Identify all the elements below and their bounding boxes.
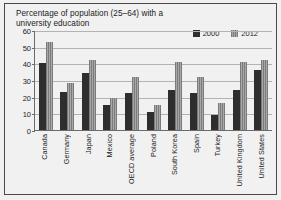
bar-group [186, 31, 208, 130]
x-axis-tick-label: South Korea [170, 134, 179, 175]
bar-2000 [82, 73, 89, 130]
bar-2012 [175, 62, 182, 130]
bar-2012 [197, 77, 204, 130]
bar-group [78, 31, 100, 130]
x-axis-tick-label: Spain [192, 134, 201, 153]
x-axis-tick-cell: United Kingdom [229, 134, 251, 194]
x-axis-tick-label: United Kingdom [235, 134, 244, 187]
bar-group [35, 31, 57, 130]
bar-2012 [67, 83, 74, 130]
bar-2000 [147, 112, 154, 130]
bar-2000 [233, 90, 240, 130]
bar-group [229, 31, 251, 130]
bar-2012 [154, 105, 161, 130]
y-axis-tick-mark [32, 131, 35, 132]
y-axis-tick-label: 40 [23, 60, 31, 69]
bar-2000 [39, 63, 46, 130]
bar-2012 [89, 60, 96, 130]
plot-area [34, 31, 272, 131]
bar-2000 [125, 93, 132, 130]
y-axis-tick-label: 30 [23, 77, 31, 86]
bar-2012 [110, 98, 117, 130]
x-axis-tick-label: Mexico [105, 134, 114, 157]
x-axis-tick-cell: South Korea [164, 134, 186, 194]
y-axis-tick-label: 0 [27, 127, 31, 136]
y-axis-tick-label: 10 [23, 110, 31, 119]
x-axis-tick-cell: Mexico [99, 134, 121, 194]
x-axis: CanadaGermanyJapanMexicoOECD averagePola… [34, 134, 272, 194]
bar-2000 [211, 115, 218, 130]
x-axis-tick-cell: OECD average [121, 134, 143, 194]
bar-group [143, 31, 165, 130]
x-axis-tick-label: Canada [40, 134, 49, 160]
x-axis-tick-label: Germany [62, 134, 71, 164]
bar-2000 [60, 92, 67, 130]
chart-screenshot: Percentage of population (25–64) with a … [0, 0, 281, 200]
x-axis-tick-label: Poland [149, 134, 158, 157]
x-axis-tick-label: OECD average [127, 134, 136, 184]
x-axis-tick-cell: United States [250, 134, 272, 194]
x-axis-tick-label: Japan [84, 134, 93, 154]
x-axis-tick-cell: Spain [185, 134, 207, 194]
bar-group [57, 31, 79, 130]
bar-group [207, 31, 229, 130]
bar-group [121, 31, 143, 130]
bar-2012 [218, 103, 225, 130]
x-axis-tick-cell: Canada [34, 134, 56, 194]
bar-group [100, 31, 122, 130]
chart-title: Percentage of population (25–64) with a … [16, 9, 196, 29]
x-axis-tick-label: United States [257, 134, 266, 178]
x-axis-tick-cell: Turkey [207, 134, 229, 194]
y-axis-tick-label: 50 [23, 43, 31, 52]
bar-group [164, 31, 186, 130]
x-axis-tick-label: Turkey [213, 134, 222, 156]
plot-area-wrapper: 0102030405060 CanadaGermanyJapanMexicoOE… [16, 31, 272, 141]
y-axis: 0102030405060 [16, 31, 31, 131]
bar-2000 [168, 90, 175, 130]
bar-2012 [240, 62, 247, 130]
bar-group [250, 31, 272, 130]
bar-2000 [190, 93, 197, 130]
x-axis-tick-cell: Germany [56, 134, 78, 194]
bar-2000 [103, 105, 110, 130]
bar-groups [35, 31, 272, 130]
y-axis-tick-label: 20 [23, 93, 31, 102]
bar-2012 [132, 77, 139, 130]
bar-2000 [254, 70, 261, 130]
bar-2012 [46, 42, 53, 130]
y-axis-tick-label: 60 [23, 27, 31, 36]
x-axis-tick-cell: Poland [142, 134, 164, 194]
chart-frame: Percentage of population (25–64) with a … [4, 3, 277, 195]
x-axis-tick-cell: Japan [77, 134, 99, 194]
bar-2012 [261, 60, 268, 130]
